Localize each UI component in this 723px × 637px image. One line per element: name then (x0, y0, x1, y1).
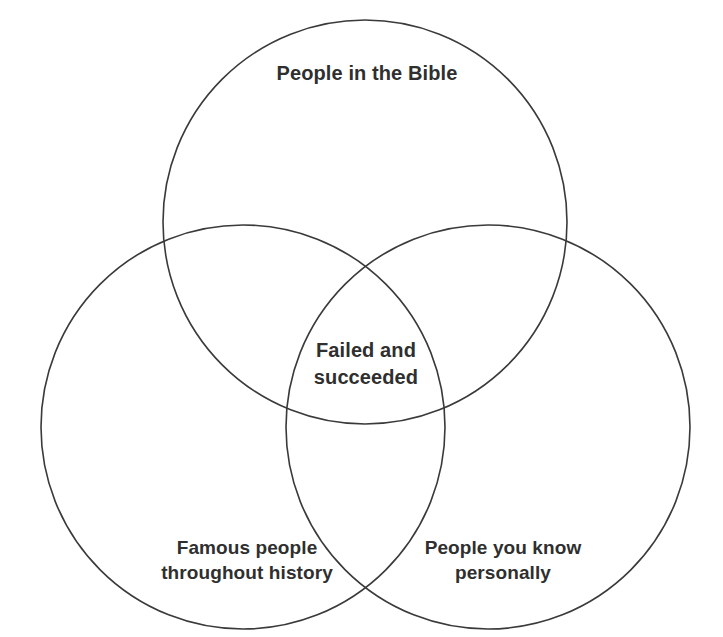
venn-label-known: People you know personally (398, 535, 608, 586)
venn-diagram: People in the Bible Failed and succeeded… (0, 0, 723, 637)
venn-label-intersection-center: Failed and succeeded (273, 337, 459, 390)
venn-circles-svg (0, 0, 723, 637)
venn-label-bible: People in the Bible (207, 60, 527, 87)
venn-label-famous: Famous people throughout history (142, 535, 352, 586)
